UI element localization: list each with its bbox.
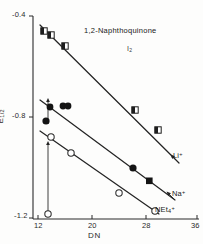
data-point bbox=[47, 104, 54, 111]
data-point bbox=[62, 43, 68, 49]
fit-line-na bbox=[40, 100, 175, 200]
y-tick-label-mid: -0.8 bbox=[12, 112, 26, 120]
fit-line-li bbox=[40, 25, 179, 163]
data-point bbox=[132, 107, 138, 113]
wave-label-subscript: 2 bbox=[129, 47, 132, 53]
y-axis-title-subscript: 1/2 bbox=[0, 109, 5, 118]
series-label-net4-charge: + bbox=[171, 205, 174, 211]
data-point bbox=[65, 103, 72, 110]
data-point bbox=[146, 178, 153, 185]
x-tick-label-28: 28 bbox=[142, 222, 151, 230]
series-label-na-text: Na bbox=[172, 189, 182, 198]
y-tick-label-top: -0.4 bbox=[12, 11, 26, 19]
data-point bbox=[41, 28, 47, 34]
series-label-net4-text: NEt bbox=[155, 205, 168, 214]
series-label-na: Na+ bbox=[172, 190, 185, 198]
x-tick-label-36: 36 bbox=[191, 222, 200, 230]
data-point bbox=[116, 190, 122, 196]
data-point bbox=[45, 211, 51, 217]
data-point bbox=[42, 117, 49, 124]
x-tick-label-20: 20 bbox=[88, 222, 97, 230]
y-tick-label-bottom: -1.2 bbox=[14, 212, 28, 220]
y-axis-title-text: E bbox=[0, 118, 5, 124]
chart-figure: -0.4 -0.8 -1.2 12 20 28 36 DN E1/2 1,2-N… bbox=[0, 0, 203, 244]
data-point bbox=[155, 127, 161, 133]
wave-label: I2 bbox=[127, 45, 132, 53]
data-point bbox=[129, 164, 136, 171]
y-axis-title: E1/2 bbox=[0, 109, 6, 124]
regression-lines bbox=[40, 25, 179, 214]
series-label-li: Li+ bbox=[173, 152, 183, 160]
series-label-net4: NEt4+ bbox=[155, 206, 175, 215]
series-label-na-charge: + bbox=[182, 189, 185, 195]
data-point bbox=[48, 32, 54, 38]
x-axis-title: DN bbox=[88, 232, 101, 240]
series-label-li-charge: + bbox=[179, 151, 182, 157]
data-point bbox=[48, 134, 54, 140]
data-point bbox=[68, 150, 74, 156]
x-tick-label-12: 12 bbox=[34, 222, 43, 230]
chart-title: 1,2-Naphthoquinone bbox=[84, 27, 156, 35]
